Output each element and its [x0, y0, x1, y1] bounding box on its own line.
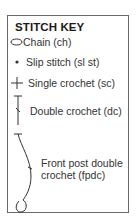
fpdc-label-line1: Front post double: [41, 157, 123, 169]
single-crochet-label: Single crochet (sc): [28, 77, 115, 89]
stitch-key-box: STITCH KEY Chain (ch) Slip stitch (sl st…: [7, 15, 129, 213]
chain-oval-icon: [10, 38, 24, 46]
front-post-double-crochet-icon: [11, 132, 33, 214]
double-crochet-icon: [12, 95, 24, 126]
slip-stitch-label: Slip stitch (sl st): [26, 56, 100, 68]
key-title: STITCH KEY: [15, 21, 84, 33]
slip-stitch-dot-icon: [14, 59, 20, 65]
single-crochet-cross-icon: [10, 76, 24, 90]
double-crochet-label: Double crochet (dc): [30, 105, 122, 117]
fpdc-label-line2: crochet (fpdc): [41, 169, 105, 181]
chain-label: Chain (ch): [23, 36, 71, 48]
